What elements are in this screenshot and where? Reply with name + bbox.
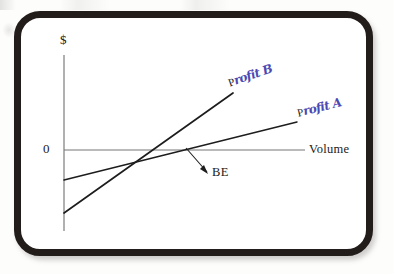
x-axis-label: Volume [309,143,349,156]
profit-b-line [64,93,233,213]
break-even-arrow-icon [186,148,208,174]
break-even-label: BE [212,166,229,179]
y-axis-origin-label: 0 [43,142,50,155]
scan-page-background: $ 0 Volume BE Profit B Profit A [0,0,394,274]
y-axis-label: $ [60,33,67,46]
